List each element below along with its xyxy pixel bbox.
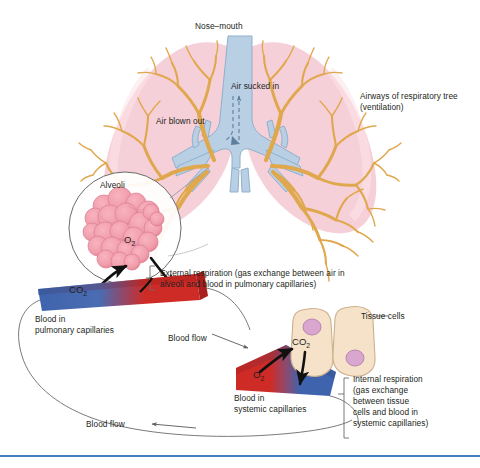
label-blood-pulmonary-line1: Blood in bbox=[35, 314, 65, 325]
label-air-sucked-in: Air sucked in bbox=[231, 81, 279, 92]
label-o2-systemic: O2 bbox=[253, 370, 264, 384]
label-internal-respiration-line2: (gas exchange bbox=[353, 385, 408, 396]
label-blood-systemic-line2: systemic capillaries bbox=[234, 404, 306, 415]
label-external-respiration-line1: External respiration (gas exchange betwe… bbox=[160, 268, 345, 279]
label-air-blown-out: Air blown out bbox=[156, 116, 205, 127]
nucleus-2 bbox=[346, 350, 364, 366]
label-blood-systemic-line1: Blood in bbox=[234, 393, 264, 404]
label-blood-flow-mid: Blood flow bbox=[168, 333, 207, 344]
label-airways-line2: (ventilation) bbox=[360, 102, 404, 113]
label-alveoli: Alveoli bbox=[100, 180, 125, 191]
label-internal-respiration-line5: systemic capillaries) bbox=[353, 418, 428, 429]
bottom-accent-rule bbox=[0, 455, 480, 457]
label-airways-line1: Airways of respiratory tree bbox=[360, 91, 458, 102]
nucleus-1 bbox=[303, 319, 321, 335]
label-internal-respiration-line3: between tissue bbox=[353, 396, 409, 407]
internal-bracket bbox=[344, 378, 349, 438]
label-nose-mouth: Nose–mouth bbox=[195, 21, 243, 32]
figure-canvas: Nose–mouth Air sucked in Air blown out A… bbox=[0, 0, 480, 468]
label-blood-pulmonary-line2: pulmonary capillaries bbox=[35, 325, 114, 336]
label-o2-alveoli: O2 bbox=[124, 235, 135, 249]
label-blood-flow-bottom: Blood flow bbox=[86, 419, 125, 430]
label-co2-tissue: CO2 bbox=[292, 337, 310, 351]
label-tissue-cells: Tissue cells bbox=[361, 311, 405, 322]
label-internal-respiration-line4: cells and blood in bbox=[353, 407, 418, 418]
label-co2-pulmonary: CO2 bbox=[69, 285, 87, 299]
label-external-respiration-line2: alveoli and blood in pulmonary capillari… bbox=[160, 279, 316, 290]
label-internal-respiration-line1: Internal respiration bbox=[353, 374, 423, 385]
